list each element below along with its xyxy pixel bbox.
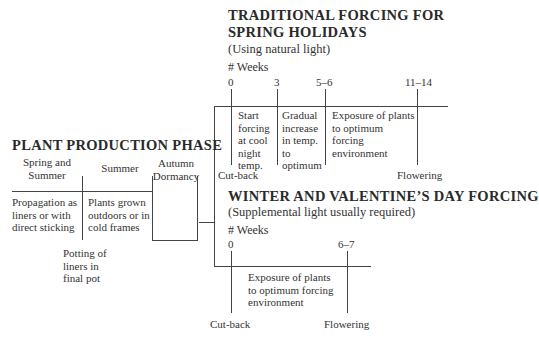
traditional-subtitle: (Using natural light) — [228, 42, 330, 57]
traditional-tick-line-5-6 — [325, 89, 326, 165]
production-potting: Potting of liners in final pot — [63, 247, 108, 285]
winter-weeks-label: # Weeks — [228, 223, 268, 238]
production-connector — [199, 222, 214, 223]
forcing-bracket — [214, 106, 215, 267]
winter-tick-0: 0 — [228, 238, 234, 250]
traditional-cut-back: Cut-back — [218, 169, 258, 181]
winter-subtitle: (Supplemental light usually required) — [228, 205, 415, 220]
traditional-stage-exposure: Exposure of plants to optimum forcing en… — [332, 109, 416, 159]
production-tick-potting — [82, 176, 83, 240]
traditional-tick-line-11-14 — [417, 89, 418, 165]
traditional-tick-11-14: 11–14 — [405, 76, 432, 88]
traditional-title-line2: SPRING HOLIDAYS — [228, 24, 367, 41]
winter-title: WINTER AND VALENTINE’S DAY FORCING — [228, 188, 539, 205]
winter-tick-line-0 — [231, 251, 232, 313]
traditional-tick-0: 0 — [228, 76, 234, 88]
dormancy-box — [152, 176, 198, 241]
traditional-tick-line-0 — [231, 89, 232, 165]
production-season-summer: Summer — [95, 162, 145, 175]
traditional-timeline — [214, 106, 448, 107]
winter-stage-exposure: Exposure of plants to optimum forcing en… — [248, 271, 338, 309]
production-season-spring-summer: Spring and Summer — [22, 156, 72, 181]
winter-cut-back: Cut-back — [210, 318, 250, 330]
traditional-flowering: Flowering — [397, 169, 442, 181]
winter-flowering: Flowering — [324, 318, 369, 330]
traditional-title-line1: TRADITIONAL FORCING FOR — [228, 7, 444, 24]
traditional-tick-5-6: 5–6 — [316, 76, 333, 88]
traditional-stage-start-forcing: Start forcing at cool night temp. — [238, 109, 278, 172]
production-stage-grown: Plants grown outdoors or in cold frames — [88, 196, 150, 234]
winter-tick-line-6-7 — [347, 251, 348, 313]
winter-tick-6-7: 6–7 — [338, 238, 355, 250]
production-title: PLANT PRODUCTION PHASE — [12, 137, 222, 154]
traditional-stage-gradual-increase: Gradual increase in temp. to optimum — [282, 109, 324, 172]
traditional-tick-3: 3 — [274, 76, 280, 88]
traditional-weeks-label: # Weeks — [228, 60, 268, 75]
production-stage-propagation: Propagation as liners or with direct sti… — [12, 196, 82, 234]
